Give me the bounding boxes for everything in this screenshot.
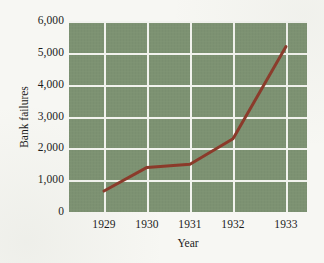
y-axis-tick-labels: 6,000 5,000 4,000 3,000 2,000 1,000 0 xyxy=(0,21,64,212)
chart-figure: Bank failures 6,000 5,000 4,000 3,000 2,… xyxy=(0,0,324,263)
y-tick-label: 1,000 xyxy=(0,173,64,185)
x-tick-label: 1933 xyxy=(256,218,316,230)
x-tick-label: 1932 xyxy=(203,218,263,230)
y-tick-label: 2,000 xyxy=(0,141,64,153)
plot-area xyxy=(69,21,307,212)
bank-failures-line xyxy=(104,46,286,191)
y-tick-label: 5,000 xyxy=(0,46,64,58)
x-axis-tick-labels: 1929 1930 1931 1932 1933 xyxy=(69,218,307,234)
y-tick-label: 0 xyxy=(0,205,64,217)
x-axis-title: Year xyxy=(69,237,307,249)
y-tick-label: 6,000 xyxy=(0,14,64,26)
data-series-line xyxy=(69,21,307,212)
y-tick-label: 3,000 xyxy=(0,110,64,122)
y-tick-label: 4,000 xyxy=(0,78,64,90)
